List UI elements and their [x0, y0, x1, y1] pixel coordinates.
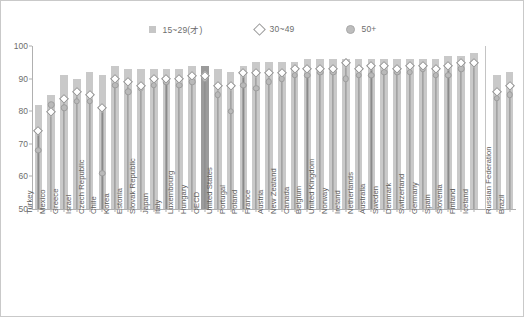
x-tick-label: France — [243, 190, 252, 214]
x-tick-mark — [509, 209, 510, 212]
x-tick-label: Hungary — [179, 185, 188, 214]
marker-stem — [496, 92, 497, 209]
chart-column[interactable]: Poland — [237, 46, 250, 209]
marker-50-plus[interactable] — [176, 82, 183, 89]
circle-swatch-icon — [346, 25, 355, 34]
x-tick-label: Estonia — [115, 188, 124, 214]
x-tick-label: Czech Republic — [76, 159, 85, 214]
chart-column[interactable]: Portugal — [224, 46, 237, 209]
x-tick-label: Finland — [448, 188, 457, 214]
plot-area: 5060708090100TurkeyMexicoGreeceIsraelCze… — [32, 46, 516, 209]
x-tick-label: Slovenia — [435, 184, 444, 214]
x-tick-label: Ireland — [332, 190, 341, 214]
chart-column[interactable]: Czech Republic — [83, 46, 96, 209]
x-tick-label: Austria — [255, 190, 264, 214]
chart-column[interactable]: United Kingdom — [314, 46, 327, 209]
marker-stem — [509, 85, 510, 209]
chart-column[interactable]: Korea — [109, 46, 122, 209]
marker-stem — [461, 62, 462, 209]
chart-column[interactable]: Norway — [327, 46, 340, 209]
x-tick-mark — [473, 209, 474, 212]
chart-column[interactable]: Russian Federation — [490, 46, 503, 209]
x-tick-label: Italy — [153, 200, 162, 214]
marker-stem — [89, 95, 90, 209]
x-tick-label: United Kingdom — [307, 159, 316, 214]
chart-column[interactable]: Slovenia — [442, 46, 455, 209]
x-tick-label: Turkey — [25, 190, 34, 214]
marker-50-plus[interactable] — [266, 79, 273, 86]
chart-figure: 15~29(才) 30~49 50+ 5060708090100TurkeyMe… — [0, 0, 524, 317]
marker-50-plus[interactable] — [445, 72, 452, 79]
chart-column[interactable]: Turkey — [32, 46, 45, 209]
y-tick-label: 80 — [19, 106, 28, 116]
marker-50-plus[interactable] — [35, 147, 42, 154]
marker-stem — [422, 66, 423, 209]
x-tick-label: Brazil — [496, 194, 505, 214]
marker-50-plus[interactable] — [61, 105, 68, 112]
x-tick-label: Germany — [409, 182, 418, 214]
y-tick-label: 60 — [19, 171, 28, 181]
marker-50-plus[interactable] — [253, 85, 260, 92]
y-tick-label: 100 — [14, 41, 28, 51]
marker-50-plus[interactable] — [99, 170, 106, 177]
x-tick-label: OECD — [191, 192, 200, 214]
marker-stem — [243, 72, 244, 209]
chart-column[interactable]: Greece — [58, 46, 71, 209]
x-tick-label: Japan — [140, 193, 149, 214]
marker-50-plus[interactable] — [74, 98, 81, 105]
x-tick-label: Belgium — [294, 186, 303, 214]
legend-label-30-49: 30~49 — [270, 24, 295, 34]
legend-item-30-49: 30~49 — [255, 24, 295, 34]
legend-item-50-plus: 50+ — [346, 24, 376, 34]
chart-column[interactable]: Germany — [416, 46, 429, 209]
x-tick-label: Denmark — [384, 182, 393, 214]
chart-column[interactable]: Canada — [288, 46, 301, 209]
chart-column[interactable]: Iceland — [468, 46, 481, 209]
x-tick-label: Chile — [89, 196, 98, 214]
marker-stem — [140, 85, 141, 209]
marker-50-plus[interactable] — [125, 88, 132, 95]
chart-column[interactable]: France — [250, 46, 263, 209]
marker-50-plus[interactable] — [240, 82, 247, 89]
chart-column[interactable]: Mexico — [45, 46, 58, 209]
x-tick-label: Korea — [102, 193, 111, 214]
legend-item-15-29: 15~29(才) — [149, 23, 202, 35]
chart-legend: 15~29(才) 30~49 50+ — [1, 21, 524, 37]
chart-column[interactable]: Slovak Republic — [134, 46, 147, 209]
chart-column[interactable]: New Zealand — [275, 46, 288, 209]
x-tick-label: Australia — [358, 184, 367, 214]
legend-label-50-plus: 50+ — [361, 24, 376, 34]
x-tick-label: Canada — [281, 187, 290, 214]
marker-stem — [256, 72, 257, 209]
chart-column[interactable]: Australia — [365, 46, 378, 209]
x-tick-label: Greece — [51, 188, 60, 214]
x-tick-label: New Zealand — [268, 168, 277, 214]
chart-column[interactable]: Hungary — [186, 46, 199, 209]
marker-50-plus[interactable] — [343, 75, 350, 82]
x-tick-label: Spain — [422, 194, 431, 214]
x-tick-label: Mexico — [38, 189, 47, 214]
bar-swatch-icon — [149, 26, 156, 33]
chart-column[interactable]: Finland — [455, 46, 468, 209]
marker-50-plus[interactable] — [506, 92, 513, 99]
x-tick-label: Netherlands — [345, 172, 354, 214]
x-tick-label: Sweden — [371, 186, 380, 214]
marker-50-plus[interactable] — [368, 72, 375, 79]
diamond-swatch-icon — [253, 23, 266, 36]
marker-stem — [473, 62, 474, 209]
x-tick-label: Norway — [320, 188, 329, 214]
chart-column[interactable]: Japan — [147, 46, 160, 209]
marker-50-plus[interactable] — [304, 72, 311, 79]
legend-label-15-29: 15~29(才) — [162, 23, 202, 35]
chart-column[interactable]: Brazil — [503, 46, 516, 209]
marker-stem — [192, 75, 193, 209]
chart-column[interactable]: Chile — [96, 46, 109, 209]
x-tick-label: Russian Federation — [483, 146, 492, 214]
x-tick-label: Poland — [230, 190, 239, 214]
y-tick-label: 90 — [19, 74, 28, 84]
x-tick-label: Switzerland — [396, 174, 405, 214]
marker-stem — [332, 69, 333, 209]
marker-50-plus[interactable] — [227, 108, 234, 115]
x-tick-label: Portugal — [217, 185, 226, 214]
marker-50-plus[interactable] — [214, 92, 221, 99]
